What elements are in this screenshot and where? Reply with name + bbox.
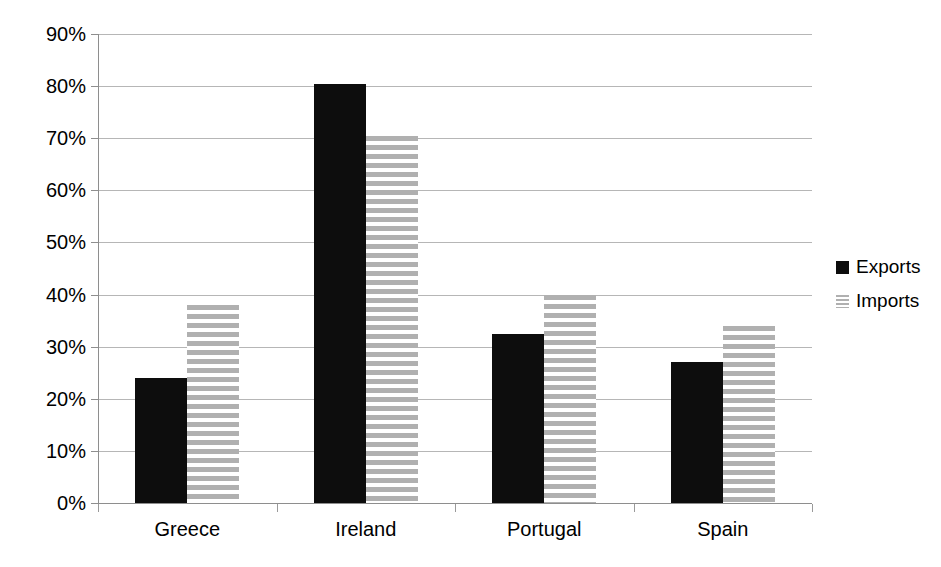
bar-greece-exports[interactable] <box>135 378 187 503</box>
y-axis-tick-label: 70% <box>0 128 86 148</box>
bar-spain-exports[interactable] <box>671 362 723 503</box>
legend-label: Imports <box>856 291 919 311</box>
x-axis-category-label: Spain <box>634 518 813 540</box>
bar-greece-imports[interactable] <box>187 305 239 503</box>
chart-legend: ExportsImports <box>836 250 941 318</box>
legend-swatch-icon <box>836 261 849 274</box>
y-axis-tick-mark <box>91 242 98 243</box>
legend-label: Exports <box>856 257 920 277</box>
y-axis-tick-mark <box>91 34 98 35</box>
y-axis-tick-label: 80% <box>0 76 86 96</box>
x-axis-tick-mark <box>277 504 278 512</box>
x-axis-category-label: Greece <box>98 518 277 540</box>
bar-ireland-imports[interactable] <box>366 136 418 503</box>
y-axis-tick-label: 30% <box>0 337 86 357</box>
y-axis-line <box>98 34 99 504</box>
legend-swatch-icon <box>836 295 849 308</box>
x-axis-tick-mark <box>812 504 813 512</box>
bar-group <box>492 34 596 503</box>
y-axis-tick-label: 0% <box>0 493 86 513</box>
bar-portugal-imports[interactable] <box>544 295 596 503</box>
y-axis-tick-label: 50% <box>0 232 86 252</box>
y-axis-tick-mark <box>91 399 98 400</box>
y-axis-tick-mark <box>91 86 98 87</box>
y-axis-tick-mark <box>91 295 98 296</box>
y-axis-tick-label: 90% <box>0 24 86 44</box>
y-axis-tick-label: 40% <box>0 285 86 305</box>
bar-chart: 0%10%20%30%40%50%60%70%80%90% GreeceIrel… <box>0 0 941 567</box>
y-axis-tick-mark <box>91 347 98 348</box>
bar-group <box>314 34 418 503</box>
y-axis-tick-label: 20% <box>0 389 86 409</box>
bar-ireland-exports[interactable] <box>314 84 366 503</box>
bar-group <box>135 34 239 503</box>
x-axis-tick-mark <box>455 504 456 512</box>
legend-item-imports[interactable]: Imports <box>836 284 941 318</box>
y-axis-tick-mark <box>91 451 98 452</box>
y-axis-tick-label: 10% <box>0 441 86 461</box>
x-axis-category-label: Ireland <box>277 518 456 540</box>
bar-group <box>671 34 775 503</box>
bar-spain-imports[interactable] <box>723 326 775 503</box>
bar-portugal-exports[interactable] <box>492 334 544 503</box>
x-axis-category-label: Portugal <box>455 518 634 540</box>
plot-area <box>98 34 812 503</box>
y-axis-labels: 0%10%20%30%40%50%60%70%80%90% <box>0 0 86 567</box>
y-axis-tick-label: 60% <box>0 180 86 200</box>
y-axis-tick-mark <box>91 190 98 191</box>
x-axis-tick-mark <box>634 504 635 512</box>
y-axis-tick-mark <box>91 138 98 139</box>
legend-item-exports[interactable]: Exports <box>836 250 941 284</box>
y-axis-tick-mark <box>91 503 98 504</box>
x-axis-tick-mark <box>98 504 99 512</box>
